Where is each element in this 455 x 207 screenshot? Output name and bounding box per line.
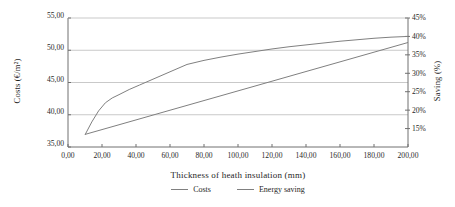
series-line-energy-saving <box>85 36 408 134</box>
legend-label: Costs <box>193 185 211 194</box>
legend-label: Energy saving <box>259 185 305 194</box>
chart-container: Costs (€/m²) Saving (%) Thickness of hea… <box>0 0 455 207</box>
series-line-costs <box>85 43 408 135</box>
plot-area <box>0 0 455 207</box>
legend-swatch-icon <box>237 189 254 190</box>
series-layer <box>85 36 408 134</box>
legend-item-energy-saving: Energy saving <box>237 185 305 194</box>
chart-legend: Costs Energy saving <box>68 185 408 194</box>
gridlines <box>68 50 408 115</box>
legend-swatch-icon <box>171 189 188 190</box>
legend-item-costs: Costs <box>171 185 211 194</box>
